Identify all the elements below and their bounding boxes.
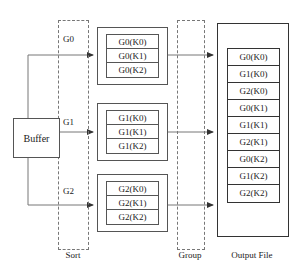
output-file-box: G0(K0) G1(K0) G2(K0) G0(K1) G1(K1) G2(K1… [217,23,289,237]
run-cell: G1(K1) [107,125,158,139]
output-file-label: Output File [214,250,290,260]
sorted-run-g0-list: G0(K0) G0(K1) G0(K2) [106,34,159,78]
dataflow-diagram: Buffer G0 G1 G2 G0(K0) G0(K1) G0(K2) G1(… [0,0,299,279]
output-file-list: G0(K0) G1(K0) G2(K0) G0(K1) G1(K1) G2(K1… [227,48,280,203]
output-cell: G2(K1) [228,134,279,151]
run-cell: G1(K0) [107,111,158,125]
sorted-run-g2: G2(K0) G2(K1) G2(K2) [97,174,168,232]
run-cell: G0(K2) [107,63,158,77]
group-phase-region [177,20,205,250]
stream-tag-g1: G1 [62,117,75,127]
output-cell: G2(K2) [228,185,279,202]
group-phase-label: Group [165,250,215,260]
output-cell: G0(K2) [228,151,279,168]
sorted-run-g0: G0(K0) G0(K1) G0(K2) [97,27,168,85]
run-cell: G2(K0) [107,182,158,196]
run-cell: G1(K2) [107,139,158,153]
buffer-box: Buffer [13,118,60,158]
output-cell: G1(K1) [228,117,279,134]
stream-tag-g2: G2 [62,186,75,196]
stream-tag-g0: G0 [62,34,75,44]
output-cell: G1(K2) [228,168,279,185]
output-cell: G1(K0) [228,66,279,83]
sorted-run-g2-list: G2(K0) G2(K1) G2(K2) [106,181,159,225]
run-cell: G2(K1) [107,196,158,210]
output-cell: G2(K0) [228,83,279,100]
output-cell: G0(K1) [228,100,279,117]
sorted-run-g1: G1(K0) G1(K1) G1(K2) [97,103,168,161]
sort-phase-label: Sort [48,250,98,260]
run-cell: G0(K1) [107,49,158,63]
run-cell: G2(K2) [107,210,158,224]
run-cell: G0(K0) [107,35,158,49]
buffer-label: Buffer [24,133,50,144]
output-cell: G0(K0) [228,49,279,66]
sorted-run-g1-list: G1(K0) G1(K1) G1(K2) [106,110,159,154]
sort-phase-region [58,20,89,250]
